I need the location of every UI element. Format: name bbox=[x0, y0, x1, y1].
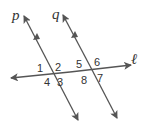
label-p: p bbox=[11, 7, 20, 23]
angle-4: 4 bbox=[44, 76, 50, 88]
angle-5: 5 bbox=[76, 58, 82, 70]
line-p bbox=[24, 16, 78, 120]
angle-1: 1 bbox=[37, 62, 43, 74]
angle-6: 6 bbox=[94, 56, 100, 68]
angle-8: 8 bbox=[81, 74, 87, 86]
line-q bbox=[63, 15, 117, 118]
angle-2: 2 bbox=[55, 61, 61, 73]
label-l: ℓ bbox=[131, 51, 137, 67]
angle-3: 3 bbox=[57, 76, 63, 88]
angle-7: 7 bbox=[97, 72, 103, 84]
label-q: q bbox=[52, 6, 60, 22]
line-l bbox=[11, 65, 131, 78]
diagram-canvas: p q ℓ 1 2 3 4 5 6 7 8 bbox=[0, 0, 142, 122]
